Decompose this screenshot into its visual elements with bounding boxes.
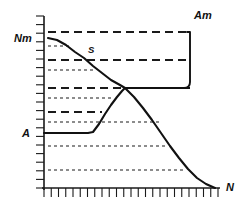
label-x-axis-end: N xyxy=(226,181,235,193)
label-y-axis-max: Nm xyxy=(14,32,32,44)
torque-power-chart-figure: Nm A S Am N xyxy=(0,0,244,210)
x-axis xyxy=(42,188,220,197)
series-a-curve xyxy=(44,88,125,133)
label-saturation-point-s: S xyxy=(88,44,95,55)
y-axis-ticks xyxy=(36,16,44,188)
label-am-bracket: Am xyxy=(193,9,212,21)
gridline-group xyxy=(48,32,190,170)
chart-canvas: Nm A S Am N xyxy=(0,0,244,210)
y-axis xyxy=(36,16,44,190)
label-y-axis-base: A xyxy=(21,127,30,139)
x-axis-ticks xyxy=(44,188,218,197)
